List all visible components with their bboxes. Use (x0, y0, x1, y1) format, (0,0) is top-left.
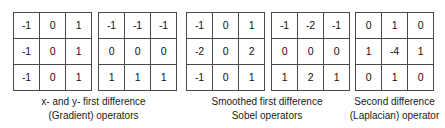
matrix-cell: -1 (324, 13, 350, 39)
matrix-sobel-y: -1 -2 -1 0 0 0 1 2 1 (271, 12, 350, 91)
matrix-cell: 1 (239, 13, 265, 39)
matrix-row-sobel: -1 0 1 -2 0 2 -1 0 1 -1 -2 -1 0 0 0 1 2 … (186, 12, 350, 91)
matrix-row-laplacian: 0 1 0 1 -4 1 0 1 0 (355, 12, 434, 91)
matrix-row-gradient: -1 0 1 -1 0 1 -1 0 1 -1 -1 -1 0 0 0 1 1 … (13, 12, 177, 91)
matrix-cell: 1 (66, 39, 92, 65)
matrix-cell: 0 (125, 39, 151, 65)
matrix-cell: 0 (408, 65, 434, 91)
caption-gradient: x- and y- first difference (Gradient) op… (1, 95, 186, 122)
matrix-cell: 2 (298, 65, 324, 91)
matrix-cell: 1 (66, 13, 92, 39)
matrix-cell: -1 (14, 13, 40, 39)
matrix-cell: 0 (99, 39, 125, 65)
matrix-cell: 0 (213, 65, 239, 91)
caption-laplacian: Second difference (Laplacian) operator (337, 95, 445, 122)
matrix-y-first-difference: -1 -1 -1 0 0 0 1 1 1 (98, 12, 177, 91)
matrix-cell: 1 (382, 65, 408, 91)
matrix-cell: 2 (239, 39, 265, 65)
matrix-cell: -1 (151, 13, 177, 39)
matrix-cell: 0 (408, 13, 434, 39)
matrix-cell: 0 (356, 65, 382, 91)
matrix-cell: -1 (187, 13, 213, 39)
matrix-cell: -1 (99, 13, 125, 39)
matrix-cell: 0 (40, 39, 66, 65)
matrix-cell: 1 (239, 65, 265, 91)
matrix-cell: -1 (14, 65, 40, 91)
matrix-cell: 1 (125, 65, 151, 91)
caption-line: Sobel operators (178, 109, 356, 123)
matrix-cell: 1 (408, 39, 434, 65)
matrix-cell: 1 (324, 65, 350, 91)
matrix-cell: 1 (66, 65, 92, 91)
matrix-cell: -4 (382, 39, 408, 65)
matrix-cell: 0 (213, 39, 239, 65)
caption-line: (Laplacian) operator (337, 109, 445, 123)
matrix-x-first-difference: -1 0 1 -1 0 1 -1 0 1 (13, 12, 92, 91)
matrix-cell: 0 (40, 65, 66, 91)
caption-sobel: Smoothed first difference Sobel operator… (178, 95, 356, 122)
caption-line: (Gradient) operators (1, 109, 186, 123)
matrix-cell: -2 (187, 39, 213, 65)
matrix-cell: 1 (382, 13, 408, 39)
matrix-cell: 0 (272, 39, 298, 65)
matrix-cell: 1 (356, 39, 382, 65)
kernel-figure: -1 0 1 -1 0 1 -1 0 1 -1 -1 -1 0 0 0 1 1 … (0, 0, 445, 128)
matrix-cell: 1 (272, 65, 298, 91)
matrix-cell: -2 (298, 13, 324, 39)
matrix-cell: -1 (14, 39, 40, 65)
matrix-sobel-x: -1 0 1 -2 0 2 -1 0 1 (186, 12, 265, 91)
matrix-cell: -1 (125, 13, 151, 39)
matrix-cell: 1 (151, 65, 177, 91)
matrix-cell: 0 (213, 13, 239, 39)
matrix-cell: -1 (187, 65, 213, 91)
caption-line: Second difference (337, 95, 445, 109)
matrix-cell: 0 (40, 13, 66, 39)
matrix-cell: -1 (272, 13, 298, 39)
matrix-cell: 0 (151, 39, 177, 65)
matrix-laplacian: 0 1 0 1 -4 1 0 1 0 (355, 12, 434, 91)
matrix-cell: 0 (356, 13, 382, 39)
matrix-cell: 0 (324, 39, 350, 65)
caption-line: Smoothed first difference (178, 95, 356, 109)
matrix-cell: 0 (298, 39, 324, 65)
caption-line: x- and y- first difference (1, 95, 186, 109)
matrix-cell: 1 (99, 65, 125, 91)
